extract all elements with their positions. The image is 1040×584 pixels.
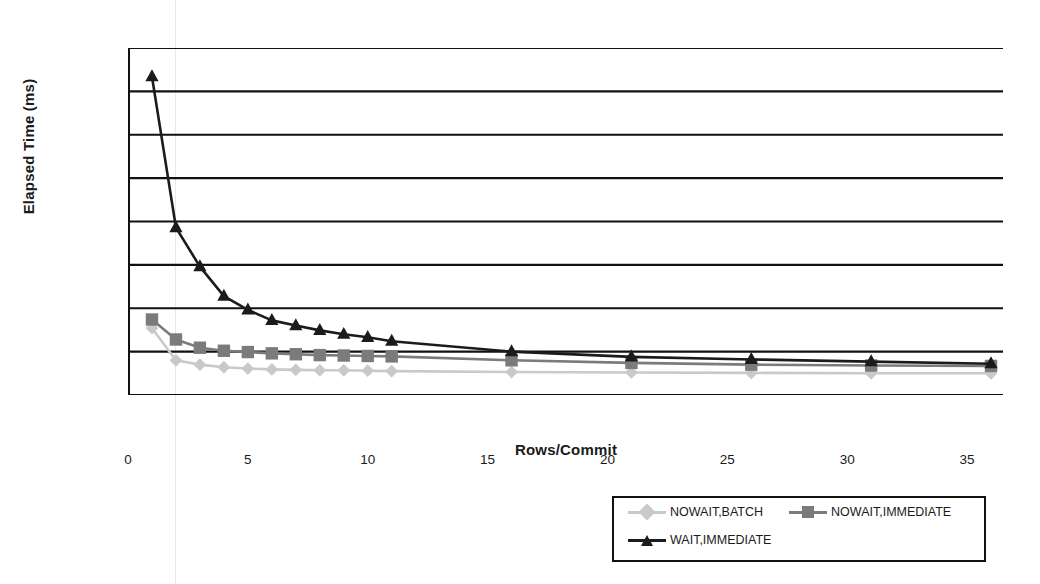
data-point-square	[362, 350, 374, 362]
data-point-diamond	[385, 365, 398, 378]
data-point-square	[242, 346, 254, 358]
data-point-triangle	[745, 352, 758, 364]
legend-item-nowait-batch[interactable]: NOWAIT,BATCH	[628, 505, 763, 519]
legend-item-nowait-immediate[interactable]: NOWAIT,IMMEDIATE	[789, 505, 951, 519]
legend-label-nowait-batch: NOWAIT,BATCH	[670, 505, 763, 519]
x-axis-tick-label: 25	[697, 452, 757, 467]
legend-label-wait-immediate: WAIT,IMMEDIATE	[670, 533, 771, 547]
data-point-diamond	[194, 358, 207, 371]
data-point-square	[194, 342, 206, 354]
data-point-square	[218, 345, 230, 357]
data-point-square	[290, 348, 302, 360]
data-point-diamond	[217, 361, 230, 374]
legend-row-1: NOWAIT,BATCH NOWAIT,IMMEDIATE	[614, 498, 984, 526]
x-axis-tick-label: 35	[937, 452, 997, 467]
legend-item-wait-immediate[interactable]: WAIT,IMMEDIATE	[628, 533, 771, 547]
data-point-triangle	[145, 69, 158, 81]
data-point-square	[146, 313, 158, 325]
x-axis-tick-label: 15	[458, 452, 518, 467]
series-wait-immediate	[145, 69, 997, 368]
legend-row-2: WAIT,IMMEDIATE	[614, 526, 984, 554]
data-point-square	[266, 347, 278, 359]
series-line	[152, 77, 991, 364]
x-axis-tick-label: 20	[577, 452, 637, 467]
data-point-diamond	[505, 366, 518, 379]
data-point-diamond	[289, 363, 302, 376]
data-point-square	[386, 350, 398, 362]
data-point-diamond	[265, 363, 278, 376]
legend-label-nowait-immediate: NOWAIT,IMMEDIATE	[831, 505, 951, 519]
data-point-diamond	[361, 364, 374, 377]
plot-svg	[128, 48, 1003, 395]
y-axis-title: Elapsed Time (ms)	[20, 47, 37, 247]
chart-legend: NOWAIT,BATCH NOWAIT,IMMEDIATE WAIT,IMMED…	[612, 496, 986, 562]
legend-key-square-icon	[789, 505, 827, 519]
data-point-diamond	[313, 364, 326, 377]
data-point-square	[170, 333, 182, 345]
data-point-diamond	[337, 364, 350, 377]
data-point-square	[338, 349, 350, 361]
x-axis-tick-label: 5	[218, 452, 278, 467]
x-axis-tick-label: 0	[98, 452, 158, 467]
legend-key-triangle-icon	[628, 533, 666, 547]
data-point-square	[314, 349, 326, 361]
legend-key-diamond-icon	[628, 505, 666, 519]
plot-area: 05001,0001,5002,0002,5003,0003,5004,000 …	[128, 48, 1003, 395]
chart-container: Elapsed Time (ms) Rows/Commit 05001,0001…	[0, 0, 1040, 584]
data-point-diamond	[241, 362, 254, 375]
x-axis-tick-label: 30	[817, 452, 877, 467]
x-axis-tick-label: 10	[338, 452, 398, 467]
